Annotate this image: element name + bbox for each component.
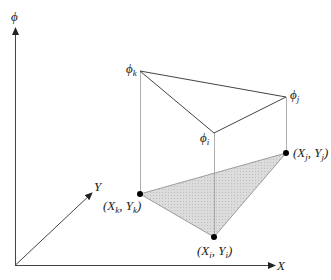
node-i-dot bbox=[211, 234, 217, 240]
base-triangle bbox=[140, 153, 286, 237]
diagram-canvas: ϕ X Y ϕk ϕj ϕi (Xk, Yk) (Xj, Yj) (Xi, Yi… bbox=[0, 0, 331, 280]
phi-i-label: ϕi bbox=[200, 131, 209, 147]
node-j-dot bbox=[283, 150, 289, 156]
y-axis-label: Y bbox=[94, 180, 101, 193]
top-triangle bbox=[140, 71, 286, 133]
diagram-svg bbox=[0, 0, 331, 280]
phi-axis-label: ϕ bbox=[11, 10, 18, 23]
x-axis-label: X bbox=[277, 259, 285, 272]
y-axis bbox=[16, 193, 93, 265]
phi-k-label: ϕk bbox=[126, 62, 137, 78]
node-j-label: (Xj, Yj) bbox=[293, 146, 328, 162]
node-k-dot bbox=[137, 191, 143, 197]
phi-j-label: ϕj bbox=[290, 88, 299, 104]
node-k-label: (Xk, Yk) bbox=[103, 199, 141, 215]
node-i-label: (Xi, Yi) bbox=[197, 244, 232, 260]
